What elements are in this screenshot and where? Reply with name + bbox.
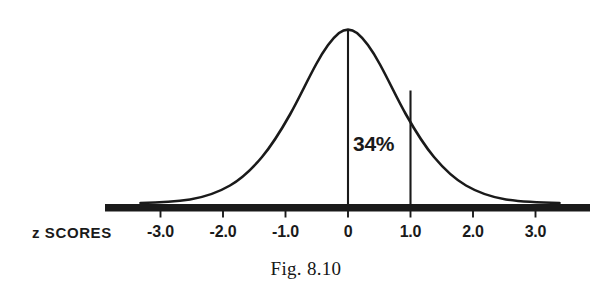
normal-curve-figure: z SCORES -3.0 -2.0 -1.0 0 1.0 2.0 3.0 34…: [0, 0, 612, 305]
axis-tick-marks: [161, 211, 536, 218]
normal-curve-plot: [0, 0, 612, 305]
bell-curve-path: [141, 30, 560, 203]
axis-baseline-bar: [105, 204, 590, 212]
